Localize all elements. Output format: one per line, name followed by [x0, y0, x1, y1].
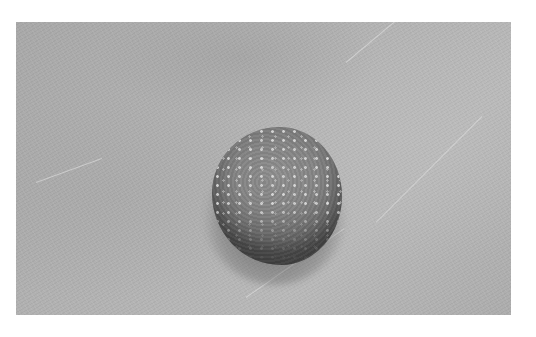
clinical-photo	[16, 22, 511, 315]
background-scratch-line	[36, 158, 102, 183]
background-scratch-line	[346, 22, 485, 63]
background-scratch-line	[376, 116, 483, 223]
figure-canvas	[0, 0, 536, 337]
skin-lesion	[212, 127, 342, 265]
